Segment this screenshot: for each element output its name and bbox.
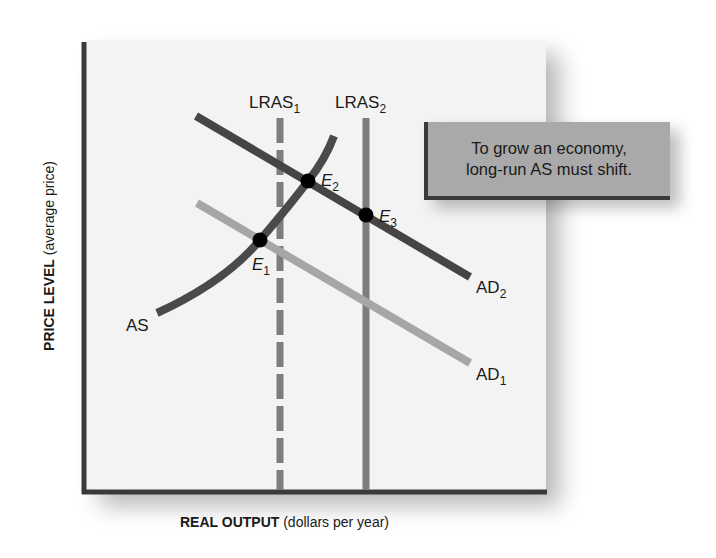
plot-svg: LRAS1 LRAS2 AD2 AD1 AS E1 E2 E3: [0, 0, 716, 558]
y-axis-label: PRICE LEVEL (average price): [41, 161, 57, 351]
callout-line-2: long-run AS must shift.: [466, 159, 632, 180]
y-axis-label-rest: (average price): [41, 161, 57, 259]
ad-as-chart: LRAS1 LRAS2 AD2 AD1 AS E1 E2 E3 To grow …: [0, 0, 716, 558]
annotation-callout: To grow an economy, long-run AS must shi…: [424, 122, 670, 200]
ad1-line: [197, 203, 470, 363]
ad2-label: AD2: [476, 278, 507, 301]
as-label: AS: [126, 316, 149, 335]
e3-dot: [359, 208, 374, 223]
callout-line-1: To grow an economy,: [471, 138, 627, 159]
e1-dot: [253, 233, 268, 248]
ad1-label: AD1: [476, 365, 507, 388]
x-axis-label-rest: (dollars per year): [279, 514, 389, 530]
x-axis-label-bold: REAL OUTPUT: [180, 514, 279, 530]
y-axis-label-bold: PRICE LEVEL: [41, 259, 57, 351]
as-curve: [157, 136, 334, 313]
lras2-label: LRAS2: [335, 93, 386, 116]
e2-dot: [301, 174, 316, 189]
e1-label: E1: [252, 255, 270, 278]
lras1-label: LRAS1: [249, 93, 300, 116]
x-axis-label: REAL OUTPUT (dollars per year): [180, 514, 389, 530]
